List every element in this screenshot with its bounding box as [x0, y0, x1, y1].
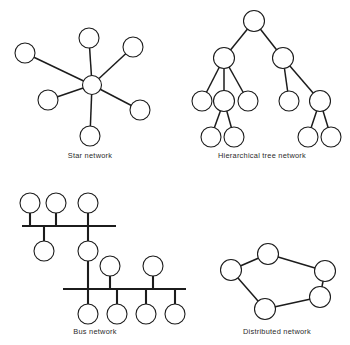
tree-level3-d — [279, 91, 299, 111]
bus-node-lower-above-1 — [100, 256, 120, 276]
distributed-node-group — [221, 244, 336, 320]
tree-level3-c — [238, 91, 258, 111]
bus-node-upper-3 — [78, 193, 98, 213]
topology-diagram-canvas: Star network Hierarchical tree network B… — [0, 0, 350, 345]
bus-node-group — [20, 193, 185, 324]
distributed-node-lower-right — [310, 287, 331, 308]
star-node-right — [130, 100, 150, 120]
tree-level2-left — [214, 48, 235, 69]
tree-level3-b — [214, 91, 235, 112]
star-node-upper-left — [15, 43, 35, 63]
bus-node-lower-above-2 — [143, 256, 163, 276]
tree-level2-right — [273, 48, 294, 69]
star-node-bottom — [80, 126, 100, 146]
distributed-node-left — [221, 260, 242, 281]
distributed-node-bottom — [255, 299, 276, 320]
network-topology-figure: Star network Hierarchical tree network B… — [0, 0, 350, 345]
tree-leaf-a — [201, 127, 221, 147]
distributed-node-right — [315, 261, 336, 282]
star-hub-node — [83, 76, 102, 95]
tree-root — [244, 11, 265, 32]
bus-node-upper-2 — [46, 193, 66, 213]
bus-node-upper-drop-1 — [34, 241, 54, 261]
distributed-node-top — [258, 244, 279, 265]
tree-leaf-b — [224, 127, 244, 147]
caption-distributed-network: Distributed network — [243, 327, 311, 336]
bus-node-lower-drop-1 — [78, 304, 98, 324]
star-node-group — [15, 28, 150, 146]
panel-bus-network: Bus network — [20, 193, 186, 336]
bus-node-lower-drop-3 — [136, 304, 156, 324]
tree-leaf-c — [298, 127, 318, 147]
panel-distributed-network: Distributed network — [221, 244, 336, 337]
star-node-upper-right — [123, 37, 143, 57]
tree-level3-a — [192, 91, 212, 111]
bus-node-bridge — [78, 241, 98, 261]
star-link — [25, 53, 92, 85]
bus-node-lower-drop-4 — [165, 304, 185, 324]
bus-node-lower-drop-2 — [107, 304, 127, 324]
caption-star-network: Star network — [68, 151, 113, 160]
panel-hierarchical-tree-network: Hierarchical tree network — [192, 11, 341, 161]
caption-hierarchical-tree-network: Hierarchical tree network — [218, 151, 306, 160]
panel-star-network: Star network — [15, 28, 150, 160]
star-node-left — [38, 90, 58, 110]
caption-bus-network: Bus network — [73, 327, 116, 336]
tree-level3-e — [310, 91, 331, 112]
tree-link-group — [202, 21, 331, 137]
star-node-top — [79, 28, 99, 48]
tree-leaf-d — [321, 127, 341, 147]
bus-node-upper-1 — [20, 193, 40, 213]
